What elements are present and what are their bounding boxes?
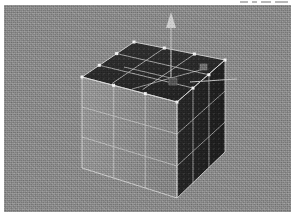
scale-handle-a[interactable] [200, 64, 207, 70]
toolbar-tick [261, 1, 271, 3]
scale-handle-b[interactable] [169, 78, 177, 85]
clipped-toolbar-strip [236, 0, 294, 4]
toolbar-tick [240, 1, 248, 3]
scene-render [4, 5, 291, 212]
viewport-3d[interactable] [4, 5, 291, 212]
toolbar-tick [275, 1, 288, 3]
toolbar-tick [252, 1, 257, 3]
app-window [0, 0, 294, 221]
